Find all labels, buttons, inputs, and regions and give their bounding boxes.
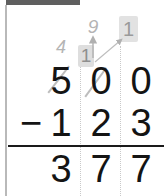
regroup-annotation-ones-box: 1 xyxy=(119,16,138,42)
subtrahend-digit-hundreds: 1 xyxy=(42,104,80,142)
subtrahend-digit-ones: 3 xyxy=(122,104,160,142)
regroup-annotation-tens: 9 xyxy=(84,17,102,36)
left-margin-rule xyxy=(5,5,7,196)
minuend-digit-ones: 0 xyxy=(122,62,160,100)
answer-digit-tens: 7 xyxy=(82,150,120,188)
minuend-digit-hundreds: 5 xyxy=(42,62,80,100)
answer-rule xyxy=(8,145,164,147)
column-separator-tens-ones xyxy=(120,46,121,196)
subtrahend-digit-tens: 2 xyxy=(82,104,120,142)
answer-digit-hundreds: 3 xyxy=(42,150,80,188)
column-separator-hundreds-tens xyxy=(80,46,81,196)
top-header-bar xyxy=(6,0,80,5)
worksheet-canvas: 4 9 1 1 5 0 0 − 1 2 3 3 7 7 xyxy=(0,0,166,196)
regroup-annotation-ones-label: 1 xyxy=(119,18,138,40)
minuend-digit-tens: 0 xyxy=(82,62,120,100)
answer-digit-ones: 7 xyxy=(122,150,160,188)
regroup-annotation-hundreds: 4 xyxy=(52,38,70,56)
